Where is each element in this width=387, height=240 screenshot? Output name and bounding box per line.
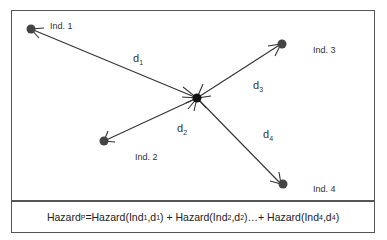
node-label-ind1: Ind. 1: [50, 21, 73, 31]
node-label-ind4: Ind. 4: [313, 184, 336, 194]
node-ind3: [278, 40, 287, 49]
node-label-ind3: Ind. 3: [313, 45, 336, 55]
node-ind1: [27, 25, 36, 34]
edge-label-d3: d3: [253, 79, 263, 93]
edge-label-d1: d1: [133, 52, 143, 66]
node-ind4: [279, 180, 288, 189]
hazard-formula: HazardP =Hazard(Ind1,d1) + Hazard(Ind2,d…: [11, 201, 375, 233]
edge-label-d4: d4: [263, 128, 273, 142]
node-ind2: [100, 137, 109, 146]
node-label-ind2: Ind. 2: [135, 152, 158, 162]
node-center: [193, 94, 202, 103]
edge-label-d2: d2: [177, 122, 187, 136]
